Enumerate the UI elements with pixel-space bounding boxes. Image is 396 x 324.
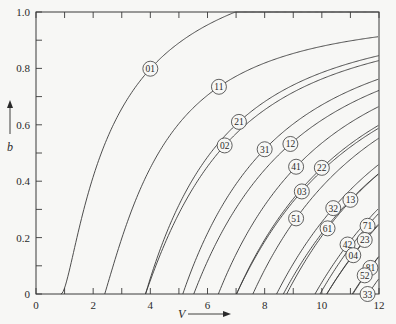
y-tick-label: 0.6 — [16, 119, 30, 131]
y-axis-label: b — [7, 140, 13, 154]
svg-text:23: 23 — [360, 235, 370, 245]
svg-text:13: 13 — [346, 195, 356, 205]
mode-label-03: 03 — [294, 184, 309, 199]
mode-label-32: 32 — [326, 201, 341, 216]
axis-ticks: 02468101200.20.40.60.81.0 — [16, 6, 384, 311]
svg-text:51: 51 — [291, 214, 301, 224]
mode-curve-03 — [237, 128, 379, 294]
mode-label-11: 11 — [211, 79, 226, 94]
b-vs-v-chart: 02468101200.20.40.60.81.0 01112102311241… — [0, 0, 396, 324]
mode-curve-11 — [105, 37, 378, 294]
mode-label-71: 71 — [360, 218, 375, 233]
mode-label-51: 51 — [289, 211, 304, 226]
svg-text:11: 11 — [214, 82, 223, 92]
y-tick-label: 0.4 — [16, 175, 30, 187]
mode-curve-01 — [61, 12, 379, 294]
mode-label-33: 33 — [360, 287, 375, 302]
mode-label-12: 12 — [283, 136, 298, 151]
svg-text:32: 32 — [329, 204, 339, 214]
mode-labels: 0111210231124122035132136171422304815233 — [143, 61, 378, 301]
mode-label-13: 13 — [343, 192, 358, 207]
svg-text:61: 61 — [323, 224, 333, 234]
svg-text:71: 71 — [363, 221, 373, 231]
svg-text:41: 41 — [291, 162, 301, 172]
svg-text:33: 33 — [363, 290, 373, 300]
svg-text:31: 31 — [260, 145, 270, 155]
svg-text:01: 01 — [146, 64, 156, 74]
mode-label-52: 52 — [357, 268, 372, 283]
mode-label-02: 02 — [217, 138, 232, 153]
x-tick-label: 4 — [148, 299, 154, 311]
svg-text:21: 21 — [234, 117, 244, 127]
y-tick-label: 1.0 — [16, 6, 30, 18]
plot-frame — [36, 12, 379, 294]
y-tick-label: 0 — [25, 288, 31, 300]
y-axis-arrow-icon — [7, 100, 13, 134]
svg-text:03: 03 — [297, 187, 307, 197]
x-tick-label: 2 — [90, 299, 96, 311]
x-axis-label: V — [178, 307, 187, 321]
x-tick-label: 12 — [374, 299, 385, 311]
x-tick-label: 8 — [262, 299, 268, 311]
svg-text:02: 02 — [220, 141, 230, 151]
svg-text:12: 12 — [286, 139, 296, 149]
svg-text:52: 52 — [360, 271, 370, 281]
mode-label-31: 31 — [257, 142, 272, 157]
svg-text:22: 22 — [317, 163, 327, 173]
mode-curve-02 — [146, 61, 379, 294]
mode-curve-21 — [146, 56, 379, 294]
mode-label-23: 23 — [357, 232, 372, 247]
mode-label-22: 22 — [314, 160, 329, 175]
x-tick-label: 10 — [316, 299, 328, 311]
mode-label-61: 61 — [320, 221, 335, 236]
y-tick-label: 0.8 — [16, 62, 30, 74]
x-tick-label: 0 — [33, 299, 39, 311]
mode-label-41: 41 — [289, 159, 304, 174]
mode-label-04: 04 — [346, 248, 361, 263]
x-axis-arrow-icon — [188, 311, 231, 317]
mode-curves — [61, 12, 379, 294]
mode-label-01: 01 — [143, 61, 158, 76]
y-tick-label: 0.2 — [16, 232, 30, 244]
x-tick-label: 6 — [205, 299, 211, 311]
svg-text:04: 04 — [349, 251, 359, 261]
mode-label-21: 21 — [231, 114, 246, 129]
